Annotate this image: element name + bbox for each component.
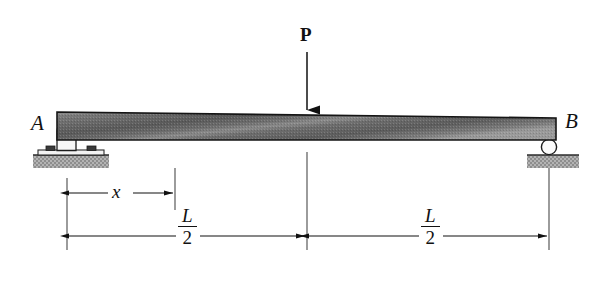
pin-support-bolt-right: [87, 146, 96, 151]
half-span-right-denominator: 2: [421, 227, 440, 247]
half-span-right-numerator: L: [421, 206, 440, 226]
half-span-left-denominator: 2: [178, 227, 197, 247]
dimension-label-x: x: [112, 182, 120, 201]
roller-support-roller: [541, 139, 556, 154]
beam-texture: [57, 112, 556, 140]
tapered-beam: [57, 112, 556, 140]
extension-lines: [67, 152, 549, 250]
load-label-P: P: [300, 25, 312, 44]
dimension-label-half-span-right: L 2: [421, 206, 440, 247]
beam-diagram-figure: A B P x L 2 L 2: [0, 0, 608, 291]
pin-support-ground: [33, 155, 109, 168]
roller-support-ground: [527, 155, 579, 168]
support-label-B: B: [565, 111, 578, 132]
pin-support-bolt-left: [46, 146, 55, 151]
half-span-left-numerator: L: [178, 206, 197, 226]
dimension-label-half-span-left: L 2: [178, 206, 197, 247]
support-label-A: A: [31, 113, 44, 134]
roller-support: [527, 139, 579, 168]
